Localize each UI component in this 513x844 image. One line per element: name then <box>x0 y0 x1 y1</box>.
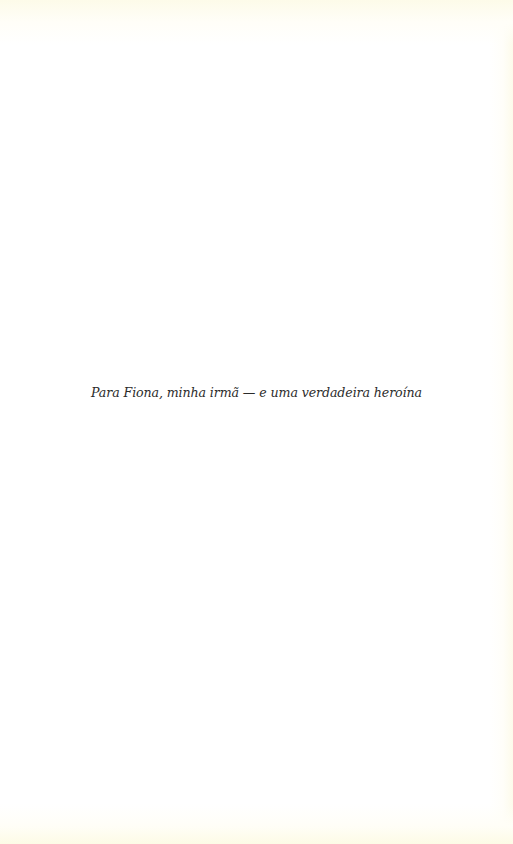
dedication-text: Para Fiona, minha irmã — e uma verdadeir… <box>0 384 513 402</box>
book-page: Para Fiona, minha irmã — e uma verdadeir… <box>0 0 513 844</box>
